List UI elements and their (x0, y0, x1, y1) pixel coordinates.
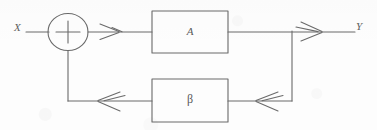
arrow-sum-to-a-upper (100, 24, 119, 32)
output-label: Y (356, 21, 362, 32)
block-a-label: A (152, 26, 228, 37)
block-diagram-canvas: X Y A β (0, 0, 377, 130)
arrow-tap-to-beta-lower (256, 102, 278, 112)
arrow-tap-to-beta-upper2 (262, 96, 283, 101)
arrow-output-lower (301, 33, 322, 42)
arrow-beta-to-sum-upper2 (104, 96, 125, 101)
input-label: X (14, 22, 21, 33)
arrow-sum-to-a-lower (100, 33, 119, 40)
arrow-beta-to-sum-lower (98, 102, 120, 112)
diagram-vector-layer (0, 0, 377, 130)
block-beta-label: β (152, 93, 228, 105)
